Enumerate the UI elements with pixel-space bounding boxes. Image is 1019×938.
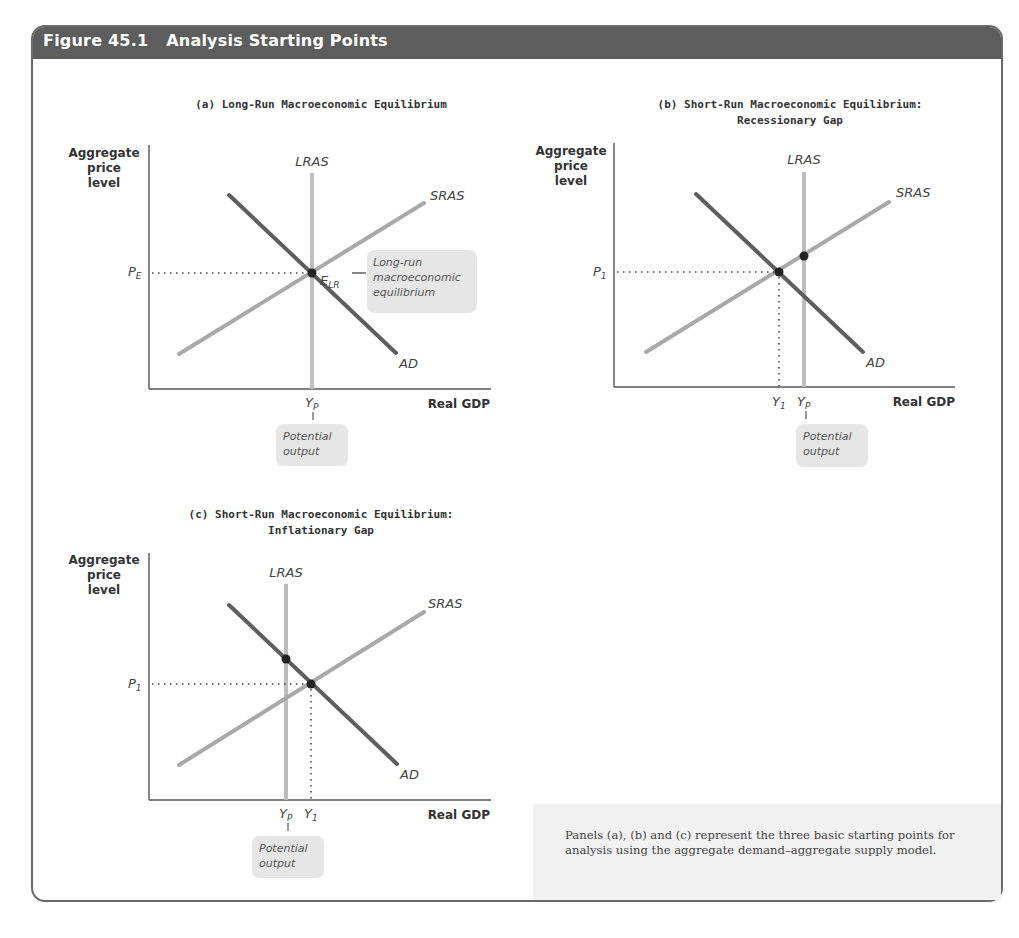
panel-b-equilibrium-point: [775, 268, 784, 277]
panel-b-ylabel-1: Aggregate: [535, 144, 606, 158]
panel-a-elr-label: ELR: [320, 273, 340, 290]
panel-a-sras-label: SRAS: [430, 188, 464, 203]
panel-b-sras-label: SRAS: [896, 185, 930, 200]
panel-a-potential-line-1: Potential: [283, 430, 332, 443]
panel-b-lras-label: LRAS: [787, 152, 820, 167]
panel-c-title-line-1: (c) Short-Run Macroeconomic Equilibrium:: [189, 508, 454, 521]
panel-a-equilibrium-point: [308, 269, 317, 278]
panel-a-ylabel-2: price: [87, 161, 121, 175]
panel-c-xlabel: Real GDP: [428, 808, 491, 822]
panel-a-ylabel-3: level: [88, 176, 120, 190]
panel-a-ad-label: AD: [398, 356, 418, 371]
figure-caption: Panels (a), (b) and (c) represent the th…: [565, 828, 985, 858]
panel-c-title-line-2: Inflationary Gap: [268, 524, 374, 537]
panel-b-potential-line-2: output: [803, 445, 840, 458]
panel-c-yp-label: YP: [279, 806, 293, 823]
panel-b-ad-label: AD: [865, 355, 885, 370]
panel-a-callout-line-3: equilibrium: [373, 286, 435, 299]
panel-b: (b) Short-Run Macroeconomic Equilibrium:…: [535, 98, 955, 467]
panel-a-pe-label: PE: [128, 264, 142, 281]
panel-a-callout-line-2: macroeconomic: [373, 271, 461, 284]
panel-a-lras-label: LRAS: [295, 154, 328, 169]
panel-a-callout-line-1: Long-run: [373, 256, 422, 269]
panel-a-title: (a) Long-Run Macroeconomic Equilibrium: [195, 98, 447, 111]
panel-b-ylabel-3: level: [555, 174, 587, 188]
panel-a-potential-line-2: output: [283, 445, 320, 458]
panel-b-xlabel: Real GDP: [893, 395, 956, 409]
panel-c-potential-line-2: output: [259, 857, 296, 870]
panel-c-sras-curve: [179, 612, 424, 765]
panel-b-ylabel-2: price: [554, 159, 588, 173]
panel-b-y1-label: Y1: [772, 394, 786, 411]
panel-b-p1-label: P1: [593, 264, 607, 281]
figure-caption-box: Panels (a), (b) and (c) represent the th…: [533, 804, 1001, 900]
panel-c-potential-line-1: Potential: [259, 842, 308, 855]
panel-b-title-line-1: (b) Short-Run Macroeconomic Equilibrium:: [658, 98, 923, 111]
panel-b-title-line-2: Recessionary Gap: [737, 114, 843, 127]
charts-canvas: (a) Long-Run Macroeconomic Equilibrium A…: [0, 0, 1019, 938]
panel-c-ad-lras-point: [282, 655, 291, 664]
panel-c-lras-label: LRAS: [269, 565, 302, 580]
panel-c-sras-label: SRAS: [428, 596, 462, 611]
panel-c: (c) Short-Run Macroeconomic Equilibrium:…: [68, 508, 491, 878]
panel-b-sras-curve: [646, 202, 889, 352]
panel-c-ylabel-3: level: [88, 583, 120, 597]
panel-a: (a) Long-Run Macroeconomic Equilibrium A…: [68, 98, 491, 466]
panel-c-y1-label: Y1: [304, 806, 318, 823]
panel-c-ad-label: AD: [399, 767, 419, 782]
panel-a-xlabel: Real GDP: [428, 397, 491, 411]
panel-b-yp-label: YP: [797, 394, 811, 411]
panel-c-ylabel-1: Aggregate: [68, 553, 139, 567]
panel-a-yp-label: YP: [305, 395, 319, 412]
panel-a-ylabel-1: Aggregate: [68, 146, 139, 160]
panel-b-potential-line-1: Potential: [803, 430, 852, 443]
panel-c-p1-label: P1: [128, 676, 142, 693]
panel-b-sras-lras-point: [800, 252, 809, 261]
panel-c-equilibrium-point: [307, 680, 316, 689]
panel-c-ylabel-2: price: [87, 568, 121, 582]
